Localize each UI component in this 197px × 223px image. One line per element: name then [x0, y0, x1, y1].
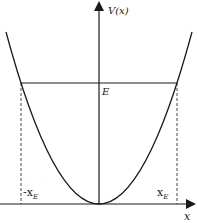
x-axis-arrow-icon: [186, 199, 196, 209]
energy-label: E: [101, 86, 110, 97]
y-axis-label: V(x): [108, 5, 129, 16]
y-axis-arrow-icon: [94, 1, 104, 11]
left-turning-point-label: -xE: [23, 186, 38, 201]
x-axis-label: x: [184, 210, 191, 223]
potential-well-diagram: V(x) x E -xE xE: [0, 0, 197, 223]
right-turning-point-label: xE: [157, 186, 168, 201]
